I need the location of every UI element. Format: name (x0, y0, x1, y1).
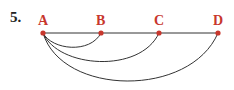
point-b (98, 30, 103, 35)
label-c: C (154, 13, 164, 28)
point-d (215, 30, 220, 35)
arc-a-c (43, 33, 159, 62)
point-c (156, 30, 161, 35)
point-a (40, 30, 45, 35)
label-d: D (213, 13, 223, 28)
segment-diagram: 5. A B C D (0, 0, 234, 90)
label-b: B (96, 13, 105, 28)
problem-number: 5. (10, 9, 22, 25)
label-a: A (38, 13, 49, 28)
